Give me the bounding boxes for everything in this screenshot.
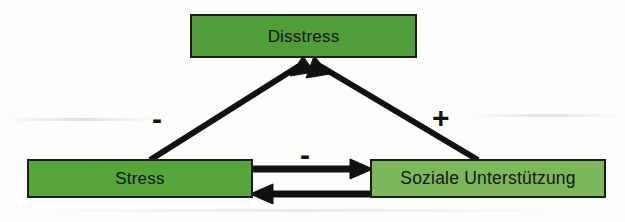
arrow-stress-to-support — [251, 159, 373, 179]
node-disstress[interactable]: Disstress — [190, 14, 417, 58]
arrow-stress-to-disstress — [150, 56, 314, 160]
node-disstress-label: Disstress — [268, 28, 340, 45]
edge-sign-stress-to-disstress: - — [152, 104, 162, 134]
edge-sign-stress-to-support: - — [300, 140, 310, 170]
node-support[interactable]: Soziale Unterstützung — [370, 159, 606, 198]
arrow-support-to-stress — [250, 184, 383, 204]
node-stress-label: Stress — [115, 170, 164, 187]
diagram-canvas: Disstress Stress Soziale Unterstützung -… — [0, 0, 625, 222]
arrow-support-to-disstress — [306, 56, 478, 160]
edge-sign-support-to-disstress: + — [432, 103, 450, 133]
node-support-label: Soziale Unterstützung — [400, 170, 575, 188]
node-stress[interactable]: Stress — [27, 159, 253, 198]
